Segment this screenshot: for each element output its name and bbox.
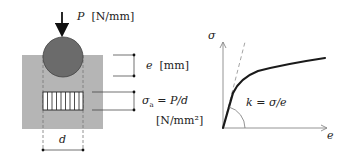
x-axis-label: e: [327, 130, 334, 141]
stress-symbol: σ: [142, 94, 150, 107]
indentation-unit: [mm]: [160, 59, 189, 72]
stress-strain-chart: [223, 42, 327, 128]
indentation-dimension: [113, 54, 135, 78]
stress-strain-curve: [223, 58, 325, 128]
diagram-canvas: [0, 0, 347, 160]
indentation-model: [22, 12, 135, 151]
slope-angle-arc: [229, 107, 245, 128]
load-unit: [N/mm]: [91, 10, 134, 23]
load-label: P [N/mm]: [77, 11, 134, 22]
stress-distribution: [43, 92, 83, 110]
indentation-label: e [mm]: [146, 60, 189, 71]
stress-subscript: a: [150, 101, 154, 109]
stress-unit: [N/mm²]: [156, 115, 203, 126]
width-label: d: [59, 134, 66, 145]
y-axis-label: σ: [208, 30, 216, 41]
stress-rhs: = P/d: [157, 94, 188, 107]
stress-formula: σa = P/d: [142, 95, 188, 109]
indenter-circle: [43, 37, 83, 77]
load-symbol: P: [77, 10, 84, 23]
width-dimension: [42, 149, 85, 152]
indentation-symbol: e: [146, 59, 153, 72]
slope-label: k = σ/e: [246, 97, 287, 108]
